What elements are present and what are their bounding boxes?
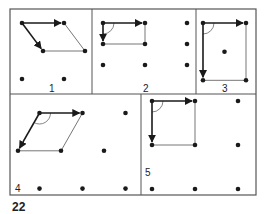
- lattice-point: [20, 77, 25, 82]
- lattice-point: [62, 21, 67, 26]
- figure-frame: [10, 9, 256, 195]
- lattice-point: [102, 149, 107, 154]
- lattice-point: [101, 63, 106, 68]
- lattice-point: [236, 187, 241, 192]
- basis-vector-b: [22, 23, 41, 49]
- lattice-edge: [64, 23, 85, 51]
- lattice-point: [150, 143, 155, 148]
- lattice-point: [150, 187, 155, 192]
- lattice-point: [101, 21, 106, 26]
- panel-label-3: 3: [222, 83, 228, 94]
- panel-3: [201, 21, 249, 83]
- lattice-point: [201, 78, 206, 83]
- lattice-point: [143, 21, 148, 26]
- lattice-point: [222, 49, 227, 54]
- lattice-point: [20, 21, 25, 26]
- lattice-point: [62, 77, 67, 82]
- panel-1: [20, 21, 88, 82]
- angle-arc: [152, 101, 163, 112]
- lattice-point: [236, 143, 241, 148]
- panel-label-4: 4: [15, 183, 21, 194]
- panel-label-1: 1: [49, 83, 55, 94]
- lattice-point: [201, 21, 206, 26]
- lattice-point: [193, 99, 198, 104]
- panel-label-5: 5: [145, 167, 151, 178]
- lattice-edge: [61, 113, 83, 151]
- panel-2: [101, 21, 190, 68]
- lattice-point: [123, 186, 128, 191]
- lattice-point: [185, 21, 190, 26]
- lattice-point: [80, 186, 85, 191]
- lattice-point: [244, 21, 249, 26]
- lattice-point: [59, 149, 64, 154]
- lattice-point: [37, 111, 42, 116]
- panel-label-2: 2: [143, 83, 149, 94]
- lattice-point: [193, 143, 198, 148]
- panel-5: [150, 99, 241, 192]
- panel-4: [16, 111, 128, 191]
- lattice-point: [41, 49, 46, 54]
- lattice-point: [193, 187, 198, 192]
- angle-arc: [103, 23, 114, 34]
- basis-vector-b: [19, 113, 39, 148]
- lattice-point: [143, 42, 148, 47]
- lattice-point: [244, 78, 249, 83]
- lattice-point: [143, 63, 148, 68]
- lattice-point: [236, 99, 241, 104]
- lattice-point: [80, 111, 85, 116]
- lattice-figure: 1 2 3 4 5 22: [0, 0, 266, 214]
- lattice-point: [185, 63, 190, 68]
- lattice-point: [16, 149, 21, 154]
- lattice-point: [150, 99, 155, 104]
- lattice-point: [123, 111, 128, 116]
- angle-arc: [203, 23, 214, 34]
- lattice-point: [83, 49, 88, 54]
- lattice-point: [37, 186, 42, 191]
- figure-number: 22: [12, 200, 26, 214]
- lattice-point: [185, 42, 190, 47]
- lattice-point: [101, 42, 106, 47]
